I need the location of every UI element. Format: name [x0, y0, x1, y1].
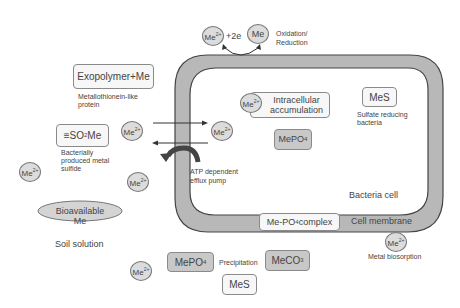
ion-charge: 2+ [216, 31, 222, 37]
cell-membrane-label: Cell membrane [351, 216, 412, 226]
ion-charge: 2+ [399, 237, 405, 243]
precipitation-label: Precipitation [219, 258, 258, 267]
sulfate-label-2: bacteria [357, 118, 382, 127]
ion-charge: 2+ [144, 266, 150, 272]
ion-label: Me2+ [133, 266, 150, 277]
metal-atom-top: Me [247, 24, 269, 44]
ion-label: Me2+ [243, 98, 260, 109]
plus-2e-label: +2e [226, 31, 241, 41]
ion-charge: 2+ [254, 98, 260, 104]
metal-ion-far-left: Me2+ [19, 162, 41, 182]
ion-charge: 2+ [225, 126, 231, 132]
exopolymer-box: Exopolymer+Me [73, 64, 154, 89]
intracellular-box: Intracellular accumulation [250, 92, 330, 118]
meco3-label: MeCO [271, 255, 300, 266]
mes-inside-label: MeS [369, 92, 390, 103]
mes-bottom-box: MeS [222, 274, 257, 295]
mes-bottom-label: MeS [229, 279, 250, 290]
so2me-suffix: Me [87, 130, 101, 141]
atp-pump-label-2: efflux pump [190, 176, 226, 185]
metal-ion-biosorption: Me2+ [385, 232, 407, 252]
mepo4-bottom-box: MePO4 [167, 252, 214, 272]
ion-label: Me2+ [388, 237, 405, 248]
metal-ion-inside: Me2+ [211, 121, 233, 141]
mepo4-inside-sub: 4 [304, 134, 307, 145]
ion-charge: 2+ [141, 177, 147, 183]
metal-biosorption-label: Metal biosorption [368, 252, 421, 261]
metal-ion-outside: Me2+ [121, 121, 143, 141]
ion-label: Me2+ [214, 126, 231, 137]
meco3-box: MeCO3 [265, 250, 310, 271]
intracellular-label-1: Intracellular [270, 95, 323, 105]
metal-ion-efflux: Me2+ [127, 172, 149, 192]
atp-pump-label-1: ATP dependent [190, 167, 238, 176]
ion-label: Me2+ [205, 31, 222, 42]
exopolymer-label: Exopolymer+Me [77, 71, 150, 82]
ion-charge: 2+ [135, 126, 141, 132]
metal-ion-intracellular: Me2+ [240, 93, 262, 113]
mepo4-complex-suffix: complex [299, 217, 333, 228]
bioavailable-me-label: Bioavailable Me [50, 206, 110, 226]
ion-label: Me2+ [124, 126, 141, 137]
metallothionein-label-2: protein [78, 100, 99, 109]
soil-solution-label: Soil solution [55, 239, 104, 249]
bact-sulfide-label-3: sulfide [61, 164, 81, 173]
metal-ion-bottom: Me2+ [130, 261, 152, 281]
oxidation-label-1: Oxidation/ [276, 29, 308, 38]
mepo4-complex-box: Me-PO4 complex [259, 213, 340, 231]
ion-label: Me2+ [130, 177, 147, 188]
meco3-sub: 3 [300, 255, 303, 266]
mepo4-inside-box: MePO4 [274, 129, 312, 150]
ion-label: Me2+ [22, 167, 39, 178]
mes-inside-box: MeS [362, 87, 397, 107]
oxidation-reduction-arrow [225, 48, 258, 55]
intracellular-label-2: accumulation [270, 105, 323, 115]
metal-ion-top: Me2+ [202, 26, 224, 46]
so2me-box: ≡SO2Me [56, 124, 109, 147]
so2me-prefix: ≡SO [64, 130, 84, 141]
ion-label: Me [252, 29, 265, 39]
mepo4-inside-label: MePO [279, 134, 305, 145]
mepo4-bottom-label: MePO [175, 257, 203, 268]
mepo4-bottom-sub: 4 [203, 257, 206, 268]
oxidation-label-2: Reduction [276, 38, 308, 47]
bacteria-cell-label: Bacteria cell [349, 190, 398, 200]
ion-charge: 2+ [33, 167, 39, 173]
mepo4-complex-label: Me-PO [267, 217, 296, 228]
